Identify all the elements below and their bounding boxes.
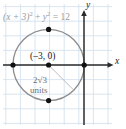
equation-lhs-base: (x + 3): [3, 12, 29, 22]
radius-length-label: 2√3: [33, 76, 47, 85]
circle-graph-figure: (x + 3)2 + y2 = 12 (–3, 0) 2√3 units x y: [0, 0, 126, 129]
axis-x: [3, 62, 114, 68]
radical-icon: √3: [38, 75, 47, 85]
equation-equals-value: = 12: [50, 12, 70, 22]
point-center: [46, 62, 51, 67]
x-axis-label: x: [115, 57, 119, 67]
point-right-intercept: [82, 62, 87, 67]
equation-label: (x + 3)2 + y2 = 12: [3, 11, 70, 23]
point-left-intercept: [10, 62, 15, 67]
radius-units-label: units: [30, 86, 48, 95]
point-bottom: [46, 98, 51, 103]
y-axis-label: y: [86, 1, 90, 11]
radius-segment: [49, 65, 74, 90]
point-top: [46, 27, 51, 32]
equation-plus: +: [33, 12, 43, 22]
center-point-label: (–3, 0): [30, 52, 55, 62]
